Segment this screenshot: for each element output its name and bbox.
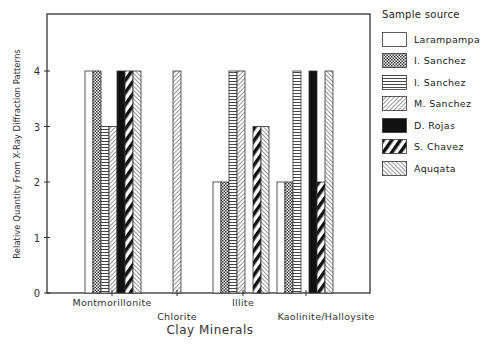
legend-swatch [382, 32, 407, 47]
legend-swatch [382, 139, 407, 154]
legend-swatch [382, 96, 407, 111]
legend-label: D. Rojas [414, 120, 455, 131]
category-label-montmorillonite: Montmorillonite [72, 297, 151, 308]
bar [293, 71, 301, 293]
legend-label: I. Sanchez [414, 55, 466, 66]
bar [133, 71, 141, 293]
y-axis-title: Relative Quantity From X-Ray Diffraction… [12, 49, 22, 259]
legend-swatch [382, 161, 407, 176]
bar [93, 71, 101, 293]
y-tick-label: 4 [34, 66, 40, 77]
legend-item: Larampampa [382, 31, 480, 47]
legend-label: S. Chavez [414, 141, 464, 152]
legend-label: M. Sanchez [414, 98, 471, 109]
bar [213, 182, 221, 293]
legend-item: M. Sanchez [382, 96, 471, 112]
bar [117, 71, 125, 293]
bar [173, 71, 181, 293]
y-tick-label: 0 [34, 288, 40, 299]
legend-swatch [382, 75, 407, 90]
bar [125, 71, 133, 293]
legend-title: Sample source [382, 9, 460, 20]
bars [85, 71, 333, 293]
y-tick-label: 2 [34, 177, 40, 188]
bar [237, 71, 245, 293]
x-axis-title: Clay Minerals [166, 323, 253, 337]
legend-swatch [382, 53, 407, 68]
legend-item: Aquqata [382, 160, 456, 176]
bar [261, 127, 269, 294]
bar [229, 71, 237, 293]
legend-label: Larampampa [414, 34, 480, 45]
legend-item: D. Rojas [382, 117, 455, 133]
bar [109, 127, 117, 294]
y-tick-label: 3 [34, 122, 40, 133]
bar [309, 71, 317, 293]
category-label-chlorite: Chlorite [157, 311, 197, 322]
bar [221, 182, 229, 293]
bar [101, 127, 109, 294]
bar [253, 127, 261, 294]
legend-item: S. Chavez [382, 139, 464, 155]
bar [317, 182, 325, 293]
category-label-illite: Illite [232, 297, 254, 308]
bar [285, 182, 293, 293]
legend-item: I. Sanchez [382, 53, 466, 69]
bar [85, 71, 93, 293]
legend-swatch [382, 118, 407, 133]
y-tick-label: 1 [34, 233, 40, 244]
bar [325, 71, 333, 293]
legend-label: Aquqata [414, 163, 456, 174]
legend-item: I. Sanchez [382, 74, 466, 90]
category-label-kaolinite-halloysite: Kaolinite/Halloysite [277, 311, 374, 322]
bar [277, 182, 285, 293]
legend-label: I. Sanchez [414, 77, 466, 88]
